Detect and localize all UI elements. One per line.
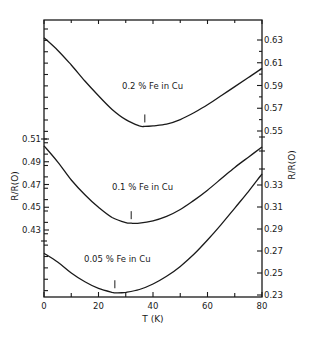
right-upper-tick-label: 0.63	[264, 35, 283, 45]
plot-frame	[44, 20, 262, 297]
resistivity-chart: 0204060800.510.490.470.450.430.630.610.5…	[0, 0, 309, 337]
left-tick-label: 0.51	[22, 134, 41, 144]
right-upper-tick-label: 0.61	[264, 58, 283, 68]
left-tick-label: 0.49	[22, 157, 41, 167]
right-lower-tick-label: 0.29	[264, 224, 283, 234]
x-axis-title: T (K)	[141, 314, 163, 324]
data-curves	[44, 38, 262, 293]
x-tick-label: 60	[202, 301, 213, 311]
axis-ticks	[41, 20, 265, 297]
curve-label-0.05pct: 0.05 % Fe in Cu	[84, 254, 151, 264]
x-tick-label: 0	[41, 301, 46, 311]
left-y-axis-title: R/R(O)	[10, 171, 20, 201]
right-lower-tick-label: 0.25	[264, 268, 283, 278]
curve-label-0.2pct: 0.2 % Fe in Cu	[122, 81, 183, 91]
left-tick-label: 0.47	[22, 180, 41, 190]
right-lower-tick-label: 0.33	[264, 180, 283, 190]
x-tick-label: 80	[257, 301, 268, 311]
right-upper-tick-label: 0.57	[264, 103, 283, 113]
axis-tick-labels: 0204060800.510.490.470.450.430.630.610.5…	[22, 35, 283, 311]
right-lower-tick-label: 0.23	[264, 290, 283, 300]
right-lower-tick-label: 0.27	[264, 246, 283, 256]
x-tick-label: 40	[148, 301, 159, 311]
left-tick-label: 0.45	[22, 202, 41, 212]
right-upper-tick-label: 0.59	[264, 81, 283, 91]
right-upper-tick-label: 0.55	[264, 126, 283, 136]
left-tick-label: 0.43	[22, 225, 41, 235]
right-lower-tick-label: 0.31	[264, 202, 283, 212]
x-tick-label: 20	[93, 301, 104, 311]
curve-label-0.1pct: 0.1 % Fe in Cu	[112, 182, 173, 192]
right-y-axis-title: R/R(O)	[287, 150, 297, 180]
